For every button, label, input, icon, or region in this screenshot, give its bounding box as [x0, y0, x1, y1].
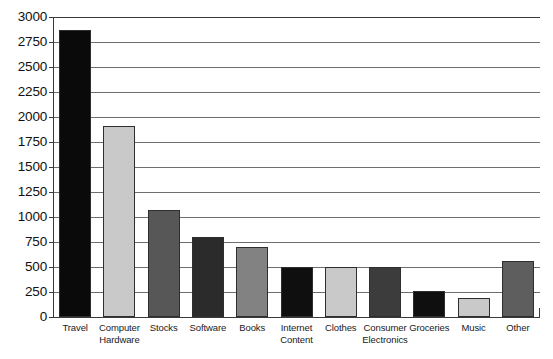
y-tick-label: 750 [0, 235, 47, 249]
y-tick-label: 1000 [0, 210, 47, 224]
bar [281, 267, 313, 317]
right-axis-tick [539, 308, 540, 317]
y-tick-label: 2500 [0, 60, 47, 74]
y-tick-label: 3000 [0, 10, 47, 24]
y-tick-label: 2000 [0, 110, 47, 124]
plot-frame-bottom-border [53, 317, 540, 318]
bar [502, 261, 534, 317]
bar [236, 247, 268, 317]
y-tick-mark [49, 17, 54, 18]
y-tick-label: 0 [0, 310, 47, 324]
y-tick-mark [49, 192, 54, 193]
y-tick-mark [49, 317, 54, 318]
y-tick-label: 1750 [0, 135, 47, 149]
gridline [53, 67, 540, 68]
y-tick-label: 250 [0, 285, 47, 299]
gridline [53, 117, 540, 118]
y-tick-mark [49, 217, 54, 218]
y-tick-label: 1250 [0, 185, 47, 199]
y-tick-mark [49, 267, 54, 268]
y-tick-mark [49, 92, 54, 93]
gridline [53, 42, 540, 43]
y-tick-mark [49, 117, 54, 118]
plot-frame-top-border [53, 17, 540, 18]
y-tick-mark [49, 142, 54, 143]
y-tick-mark [49, 42, 54, 43]
bar [458, 298, 490, 317]
bar-chart-figure: 0250500750100012501500175020002250250027… [0, 0, 553, 359]
y-tick-label: 2250 [0, 85, 47, 99]
y-tick-mark [49, 167, 54, 168]
bar [369, 267, 401, 317]
bar [59, 30, 91, 317]
y-tick-mark [49, 67, 54, 68]
y-tick-label: 2750 [0, 35, 47, 49]
x-axis: TravelComputer HardwareStocksSoftwareBoo… [53, 322, 540, 359]
bar [103, 126, 135, 317]
x-tick-label: Other [490, 322, 546, 334]
y-tick-mark [49, 292, 54, 293]
gridline [53, 92, 540, 93]
bar [325, 267, 357, 317]
bar [148, 210, 180, 318]
y-axis: 0250500750100012501500175020002250250027… [0, 0, 47, 359]
bar [192, 237, 224, 317]
y-tick-label: 500 [0, 260, 47, 274]
plot-area [53, 17, 540, 318]
y-tick-mark [49, 242, 54, 243]
bar [413, 291, 445, 317]
y-tick-label: 1500 [0, 160, 47, 174]
